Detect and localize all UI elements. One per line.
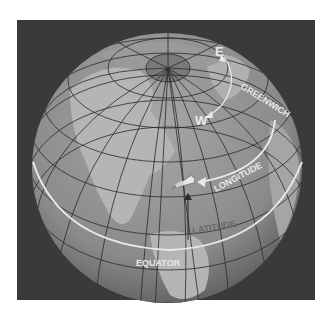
- globe-diagram: E W GREENWICH LONGITUDE LATITUDE EQUATOR: [0, 0, 333, 312]
- label-west: W: [195, 113, 208, 128]
- label-east: E: [215, 44, 224, 59]
- label-equator: EQUATOR: [136, 258, 181, 268]
